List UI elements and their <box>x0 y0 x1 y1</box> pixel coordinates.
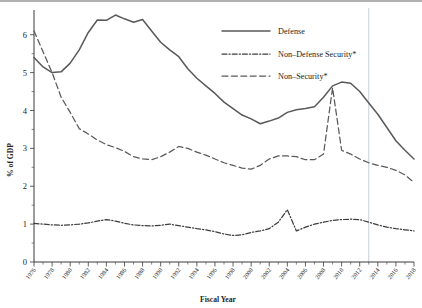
x-tick-label: 2016 <box>386 266 399 280</box>
y-tick-label: 5 <box>23 68 27 78</box>
x-tick-label: 1988 <box>132 266 145 280</box>
x-tick-label: 2000 <box>241 266 254 280</box>
x-tick-label: 2006 <box>295 266 308 280</box>
y-tick-label: 4 <box>23 106 28 116</box>
y-tick-label: 1 <box>23 219 27 229</box>
x-tick-label: 2014 <box>368 266 381 280</box>
chart-container: 0123456 19761978198019821984198619881990… <box>0 0 422 308</box>
x-tick-label: 2012 <box>350 266 363 280</box>
x-tick-label: 2004 <box>277 266 290 280</box>
legend-label-2: Non–Defense Security* <box>278 50 356 59</box>
legend-label-3: Non–Security* <box>278 72 328 81</box>
x-axis-title: Fiscal Year <box>200 295 236 304</box>
x-tick-label: 1998 <box>223 266 236 280</box>
x-tick-label: 1982 <box>78 266 91 280</box>
series-line-non-defense-security <box>34 210 414 236</box>
x-tick-label: 1986 <box>114 266 127 280</box>
top-divider <box>0 0 422 2</box>
x-tick-label: 2002 <box>259 266 272 280</box>
legend-layer: DefenseNon–Defense Security*Non–Security… <box>222 27 356 81</box>
x-tick-label: 1978 <box>42 266 55 280</box>
y-tick-label: 2 <box>23 181 27 191</box>
x-tick-label: 2018 <box>404 266 417 280</box>
x-tick-label: 2008 <box>313 266 326 280</box>
x-tick-label: 1980 <box>60 266 73 280</box>
x-tick-label: 1992 <box>169 266 182 280</box>
y-tick-label: 6 <box>23 30 27 40</box>
series-layer <box>34 15 414 235</box>
y-tick-layer: 0123456 <box>23 30 34 267</box>
x-tick-label: 1984 <box>96 266 109 280</box>
y-tick-label: 3 <box>23 143 27 153</box>
series-line-defense <box>34 15 414 159</box>
x-tick-layer: 1976197819801982198419861988199019921994… <box>24 262 417 280</box>
x-tick-label: 1990 <box>151 266 164 280</box>
y-tick-label: 0 <box>23 257 27 267</box>
x-tick-label: 1996 <box>205 266 218 280</box>
x-tick-label: 1994 <box>187 266 200 280</box>
x-tick-label: 1976 <box>24 266 37 280</box>
y-axis-title: % of GDP <box>6 143 15 177</box>
gdp-spending-line-chart: 0123456 19761978198019821984198619881990… <box>0 0 422 308</box>
x-tick-label: 2010 <box>331 266 344 280</box>
legend-label-1: Defense <box>278 27 305 36</box>
